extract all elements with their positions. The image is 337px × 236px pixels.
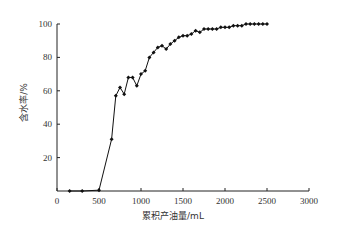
data-point-marker [227,25,231,29]
data-point-marker [265,22,269,26]
y-tick-label: 100 [39,19,53,29]
data-point-marker [181,34,185,38]
x-axis-label: 累积产油量/mL [142,210,204,221]
data-point-marker [231,24,235,28]
data-point-marker [135,84,139,88]
data-point-marker [131,75,135,79]
data-point-marker [223,25,227,29]
x-tick-label: 2000 [216,196,235,206]
data-point-marker [68,189,72,193]
y-tick-label: 60 [43,86,53,96]
data-point-marker [80,189,84,193]
data-point-marker [114,94,118,98]
data-point-marker [110,137,114,141]
data-point-marker [257,22,261,26]
y-tick-label: 40 [43,119,53,129]
x-tick-label: 3000 [300,196,319,206]
data-point-marker [261,22,265,26]
data-point-marker [236,24,240,28]
series-line [70,24,267,191]
x-tick-label: 0 [55,196,60,206]
x-tick-label: 1500 [174,196,193,206]
data-point-marker [185,34,189,38]
x-tick-label: 500 [92,196,106,206]
y-tick-label: 80 [43,52,53,62]
y-axis-label: 含水率/% [18,83,29,122]
y-tick-label: 20 [43,153,53,163]
x-tick-label: 1000 [132,196,151,206]
data-point-marker [244,22,248,26]
data-point-marker [252,22,256,26]
data-point-marker [126,75,130,79]
data-point-marker [240,24,244,28]
x-tick-label: 2500 [258,196,277,206]
data-point-marker [97,188,101,192]
data-point-marker [219,25,223,29]
water-cut-chart: 20406080100050010001500200025003000累积产油量… [0,0,337,236]
data-point-marker [248,22,252,26]
data-point-marker [210,27,214,31]
data-point-marker [206,27,210,31]
data-point-marker [215,27,219,31]
